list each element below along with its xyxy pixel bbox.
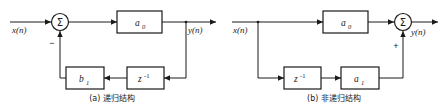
label-output-y-a: y(n) (187, 25, 203, 35)
caption-panel-a: (a) 递归结构 (89, 93, 135, 103)
summer-sigma-symbol-a: Σ (57, 17, 63, 28)
arrowhead-delay-input-a (164, 75, 170, 80)
block-diagram-figure: x(n) Σ − a 0 y(n) (0, 0, 445, 110)
caption-panel-b: (b) 非递归结构 (307, 93, 361, 103)
summer-sigma-symbol-b: Σ (400, 17, 406, 28)
arrowhead-summer-input-b (388, 19, 394, 24)
arrowhead-output-a (210, 19, 216, 24)
block-subscript-a1-b: 1 (361, 79, 364, 86)
block-subscript-b1-a: 1 (86, 79, 89, 86)
panel-a-recursive-structure: x(n) Σ − a 0 y(n) (10, 11, 216, 103)
block-label-a0-a: a (135, 18, 140, 28)
block-label-z-b: z (293, 74, 298, 84)
figure-root: x(n) Σ − a 0 y(n) (0, 0, 445, 110)
arrowhead-lower-summer-b (400, 31, 405, 37)
label-input-x-a: x(n) (11, 25, 27, 35)
arrowhead-output-b (432, 19, 438, 24)
arrowhead-a0-input-a (111, 19, 117, 24)
summer-sign-minus-a: − (49, 38, 54, 48)
arrowhead-a1-input-b (335, 75, 341, 80)
block-label-z-a: z (137, 74, 142, 84)
block-gain-a1-b (341, 67, 379, 89)
block-gain-b1-a (66, 67, 104, 89)
arrowhead-a0-input-b (317, 19, 323, 24)
block-superscript-z-a: -1 (144, 72, 149, 79)
arrowhead-b1-input-a (104, 75, 110, 80)
summer-sign-plus-b: + (393, 41, 398, 51)
block-label-a0-b: a (341, 18, 346, 28)
arrowhead-input-summer-a (45, 19, 51, 24)
label-output-y-b: y(n) (410, 27, 426, 37)
panel-b-nonrecursive-structure: x(n) a 0 Σ y(n) (232, 11, 438, 103)
arrowhead-feedback-summer-a (57, 31, 62, 37)
block-label-b1-a: b (79, 74, 84, 84)
arrowhead-delay-input-b (278, 75, 284, 80)
block-label-a1-b: a (354, 74, 359, 84)
block-superscript-z-b: -1 (300, 72, 305, 79)
label-input-x-b: x(n) (232, 25, 248, 35)
